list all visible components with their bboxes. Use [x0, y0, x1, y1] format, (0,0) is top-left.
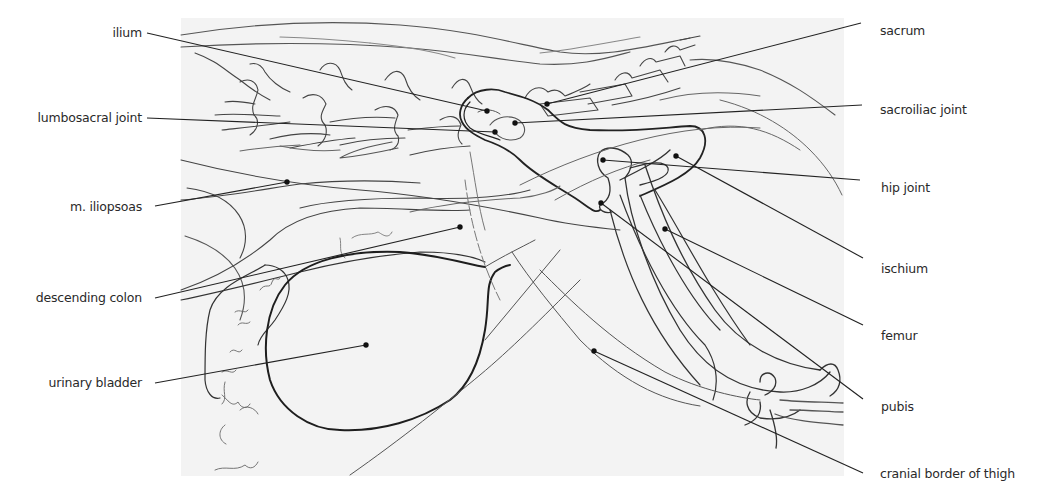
label-urinary-bladder: urinary bladder — [49, 376, 142, 390]
dot-hip-joint — [600, 157, 605, 162]
label-sacrum: sacrum — [880, 24, 925, 38]
dot-femur — [662, 226, 667, 231]
label-lumbosacral-joint: lumbosacral joint — [38, 111, 142, 125]
label-ischium: ischium — [881, 262, 928, 276]
dot-cranial-border-of-thigh — [591, 348, 596, 353]
dot-m-iliopsoas — [284, 179, 289, 184]
dot-sacroiliac-joint — [512, 120, 517, 125]
label-m-iliopsoas: m. iliopsoas — [70, 200, 142, 214]
dot-ischium — [673, 153, 678, 158]
label-sacroiliac-joint: sacroiliac joint — [880, 103, 967, 117]
label-ilium: ilium — [112, 26, 142, 40]
dot-pubis — [598, 200, 603, 205]
dot-urinary-bladder — [363, 342, 368, 347]
label-femur: femur — [881, 329, 917, 343]
dot-sacrum — [544, 101, 549, 106]
dot-ilium — [484, 108, 489, 113]
label-descending-colon: descending colon — [36, 291, 142, 305]
label-hip-joint: hip joint — [881, 181, 930, 195]
label-cranial-border-of-thigh: cranial border of thigh — [880, 467, 1015, 481]
dot-lumbosacral-joint — [492, 129, 497, 134]
dot-descending-colon — [457, 224, 462, 229]
anatomy-diagram — [0, 0, 1045, 499]
label-pubis: pubis — [881, 400, 914, 414]
